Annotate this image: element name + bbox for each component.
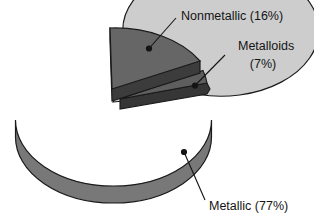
leader-dot-metalloids bbox=[192, 82, 198, 88]
slice-metallic-side bbox=[16, 120, 212, 203]
label-metalloids-line1: Metalloids bbox=[238, 39, 294, 53]
leader-dot-metallic bbox=[181, 149, 187, 155]
label-nonmetallic: Nonmetallic (16%) bbox=[181, 9, 283, 23]
leader-dot-nonmetallic bbox=[146, 45, 152, 51]
label-metalloids-line2: (7%) bbox=[250, 57, 276, 71]
label-metallic: Metallic (77%) bbox=[209, 199, 288, 213]
pie-chart: Nonmetallic (16%) Metalloids (7%) Metall… bbox=[0, 0, 314, 224]
pie-chart-canvas: Nonmetallic (16%) Metalloids (7%) Metall… bbox=[0, 0, 314, 224]
